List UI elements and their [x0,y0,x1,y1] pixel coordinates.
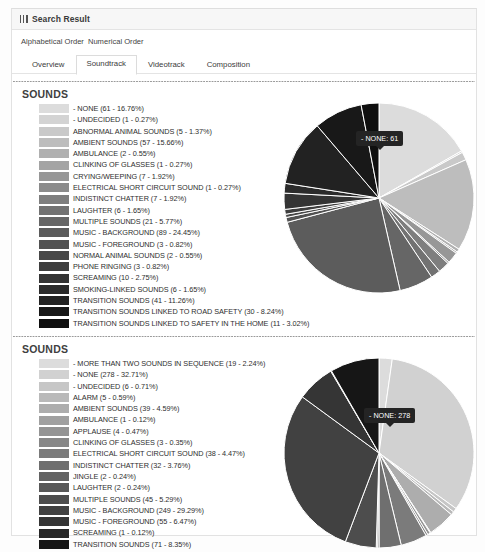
sounds-section-1: SOUNDS - NONE (61 - 16.76%)- UNDECIDED (… [12,81,476,329]
panel-header: Search Result [12,9,476,30]
legend-swatch [39,393,69,402]
legend-item[interactable]: MUSIC - FOREGROUND (55 - 6.47%) [39,516,284,527]
order-options: Alphabetical Order Numerical Order [12,30,476,53]
legend-item[interactable]: CLINKING OF GLASSES (1 - 0.27%) [39,159,284,170]
legend-label: MULTIPLE SOUNDS (21 - 5.77%) [73,218,182,225]
legend-label: ELECTRICAL SHORT CIRCUIT SOUND (38 - 4.4… [73,450,245,457]
legend-label: SCREAMING (10 - 2.75%) [73,274,158,281]
legend-label: TRANSITION SOUNDS LINKED TO ROAD SAFETY … [73,308,284,315]
legend-label: MUSIC - BACKGROUND (89 - 24.45%) [73,229,200,236]
legend-item[interactable]: AMBIENT SOUNDS (39 - 4.59%) [39,403,284,414]
legend-swatch [39,472,69,481]
legend-label: TRANSITION SOUNDS (41 - 11.26%) [73,297,195,304]
legend-swatch [39,517,69,526]
legend-item[interactable]: TRANSITION SOUNDS LINKED TO ROAD SAFETY … [39,306,284,317]
legend-swatch [39,228,69,237]
legend-swatch [39,138,69,147]
legend-item[interactable]: MUSIC - BACKGROUND (249 - 29.29%) [39,505,284,516]
legend-item[interactable]: - UNDECIDED (1 - 0.27%) [39,114,284,125]
legend-swatch [39,149,69,158]
legend-item[interactable]: MUSIC - BACKGROUND (89 - 24.45%) [39,227,284,238]
pie-chart[interactable] [284,358,474,552]
tab-videotrack[interactable]: Videotrack [137,56,196,74]
tab-bar: Overview Soundtrack Videotrack Compositi… [12,53,476,74]
legend-item[interactable]: AMBIENT SOUNDS (57 - 15.66%) [39,137,284,148]
legend-label: LAUGHTER (2 - 0.24%) [73,484,150,491]
legend-item[interactable]: - MORE THAN TWO SOUNDS IN SEQUENCE (19 -… [39,358,284,369]
tab-overview[interactable]: Overview [21,56,76,74]
legend-swatch [39,240,69,249]
legend-swatch [39,427,69,436]
legend-item[interactable]: SMOKING-LINKED SOUNDS (6 - 1.65%) [39,284,284,295]
legend-item[interactable]: ELECTRICAL SHORT CIRCUIT SOUND (38 - 4.4… [39,448,284,459]
legend-item[interactable]: - NONE (278 - 32.71%) [39,369,284,380]
legend-swatch [39,483,69,492]
legend-swatch [39,370,69,379]
order-option-alphabetical[interactable]: Alphabetical Order [21,37,84,46]
legend-swatch [39,449,69,458]
legend-item[interactable]: SCREAMING (1 - 0.12%) [39,527,284,538]
legend-item[interactable]: ALARM (5 - 0.59%) [39,392,284,403]
legend-item[interactable]: SCREAMING (10 - 2.75%) [39,272,284,283]
legend-item[interactable]: TRANSITION SOUNDS LINKED TO SAFETY IN TH… [39,318,284,329]
legend-item[interactable]: TRANSITION SOUNDS (41 - 11.26%) [39,295,284,306]
legend-label: - UNDECIDED (6 - 0.71%) [73,383,158,390]
legend-label: ABNORMAL ANIMAL SOUNDS (5 - 1.37%) [73,128,212,135]
legend-swatch [39,251,69,260]
legend-item[interactable]: - NONE (61 - 16.76%) [39,103,284,114]
legend-item[interactable]: MULTIPLE SOUNDS (45 - 5.29%) [39,494,284,505]
tab-soundtrack[interactable]: Soundtrack [76,55,137,75]
page-title: Search Result [32,14,90,24]
legend-item[interactable]: APPLAUSE (4 - 0.47%) [39,426,284,437]
legend-label: CRYING/WEEPING (7 - 1.92%) [73,173,175,180]
legend-label: CLINKING OF GLASSES (1 - 0.27%) [73,161,192,168]
legend-item[interactable]: - UNDECIDED (6 - 0.71%) [39,381,284,392]
legend-item[interactable]: JINGLE (2 - 0.24%) [39,471,284,482]
order-option-numerical[interactable]: Numerical Order [88,37,144,46]
legend-label: - UNDECIDED (1 - 0.27%) [73,116,158,123]
legend-item[interactable]: CLINKING OF GLASSES (3 - 0.35%) [39,437,284,448]
legend-label: ELECTRICAL SHORT CIRCUIT SOUND (1 - 0.27… [73,184,241,191]
legend-item[interactable]: INDISTINCT CHATTER (32 - 3.76%) [39,460,284,471]
legend-label: NORMAL ANIMAL SOUNDS (2 - 0.55%) [73,252,202,259]
pie-chart-wrap-1: - NONE: 61 [284,103,476,297]
legend-label: LAUGHTER (6 - 1.65%) [73,207,150,214]
legend-item[interactable]: INDISTINCT CHATTER (7 - 1.92%) [39,193,284,204]
legend-swatch [39,307,69,316]
legend-label: - NONE (61 - 16.76%) [73,105,144,112]
legend-item[interactable]: MULTIPLE SOUNDS (21 - 5.77%) [39,216,284,227]
legend-label: AMBIENT SOUNDS (57 - 15.66%) [73,139,183,146]
legend-label: MUSIC - FOREGROUND (3 - 0.82%) [73,241,192,248]
legend-item[interactable]: ELECTRICAL SHORT CIRCUIT SOUND (1 - 0.27… [39,182,284,193]
legend-swatch [39,529,69,538]
legend-label: AMBULANCE (1 - 0.12%) [73,416,155,423]
legend-label: SCREAMING (1 - 0.12%) [73,529,154,536]
legend-item[interactable]: PHONE RINGING (3 - 0.82%) [39,261,284,272]
legend-item[interactable]: TRANSITION SOUNDS (71 - 8.35%) [39,539,284,550]
tab-composition[interactable]: Composition [196,56,261,74]
legend-swatch [39,495,69,504]
legend-item[interactable]: ABNORMAL ANIMAL SOUNDS (5 - 1.37%) [39,126,284,137]
legend-swatch [39,319,69,328]
legend-label: JINGLE (2 - 0.24%) [73,473,136,480]
legend-swatch [39,285,69,294]
legend-label: MUSIC - FOREGROUND (55 - 6.47%) [73,518,196,525]
legend-label: SMOKING-LINKED SOUNDS (6 - 1.65%) [73,286,206,293]
legend-swatch [39,161,69,170]
legend-label: PHONE RINGING (3 - 0.82%) [73,263,169,270]
legend-label: INDISTINCT CHATTER (7 - 1.92%) [73,195,186,202]
legend-item[interactable]: AMBULANCE (1 - 0.12%) [39,414,284,425]
legend-item[interactable]: MUSIC - FOREGROUND (3 - 0.82%) [39,239,284,250]
legend-item[interactable]: LAUGHTER (2 - 0.24%) [39,482,284,493]
legend-item[interactable]: AMBULANCE (2 - 0.55%) [39,148,284,159]
legend-label: ALARM (5 - 0.59%) [73,394,135,401]
legend-item[interactable]: NORMAL ANIMAL SOUNDS (2 - 0.55%) [39,250,284,261]
legend-item[interactable]: CRYING/WEEPING (7 - 1.92%) [39,171,284,182]
legend-swatch [39,217,69,226]
section-title: SOUNDS [22,343,476,355]
legend-swatch [39,296,69,305]
legend-label: TRANSITION SOUNDS LINKED TO SAFETY IN TH… [73,320,309,327]
legend-swatch [39,206,69,215]
legend-swatch [39,172,69,181]
legend-item[interactable]: LAUGHTER (6 - 1.65%) [39,205,284,216]
